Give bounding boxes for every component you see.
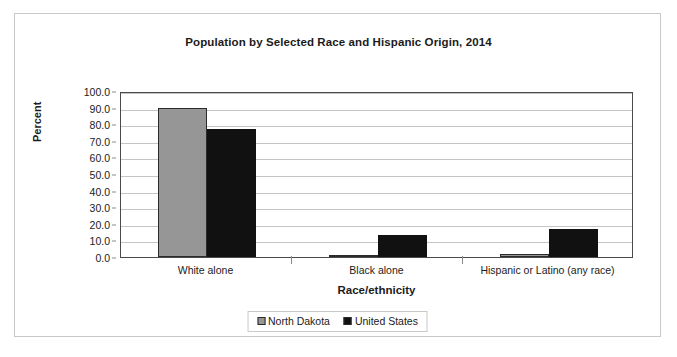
y-axis-tick-mark [112, 158, 116, 159]
y-axis-tick-mark [112, 208, 116, 209]
bar[interactable] [207, 129, 256, 257]
y-axis-tick-label: 90.0 [90, 103, 110, 115]
legend-entry[interactable]: North Dakota [257, 315, 330, 327]
bar-group [292, 93, 463, 257]
x-axis-title: Race/ethnicity [120, 284, 633, 296]
bars-layer [121, 93, 632, 257]
bar[interactable] [158, 108, 207, 257]
y-axis-tick-label: 10.0 [90, 235, 110, 247]
y-axis-tick-mark [112, 191, 116, 192]
x-axis-tick-label: Black alone [349, 264, 403, 276]
x-axis-tick-label: Hispanic or Latino (any race) [480, 264, 614, 276]
y-axis-tick-label: 100.0 [84, 86, 110, 98]
y-axis-tick-label: 40.0 [90, 186, 110, 198]
y-axis-tick-mark [112, 175, 116, 176]
plot-wrap [120, 92, 633, 258]
legend-swatch-icon [344, 317, 352, 325]
bar[interactable] [378, 235, 427, 257]
plot-area [120, 92, 633, 258]
bar[interactable] [549, 229, 598, 257]
y-axis-tick-mark [112, 258, 116, 259]
y-axis-tick-labels: 0.010.020.030.040.050.060.070.080.090.01… [59, 92, 116, 258]
y-axis-tick-label: 0.0 [95, 252, 110, 264]
x-axis-tick-labels: White aloneBlack aloneHispanic or Latino… [120, 264, 633, 282]
legend-label: United States [355, 315, 418, 327]
y-axis-tick-label: 50.0 [90, 169, 110, 181]
y-axis-tick-mark [112, 224, 116, 225]
bar-group [463, 93, 633, 257]
chart-legend: North DakotaUnited States [247, 311, 428, 332]
legend-entry[interactable]: United States [344, 315, 418, 327]
y-axis-tick-mark [112, 241, 116, 242]
y-axis-title: Percent [31, 102, 43, 142]
y-axis-tick-label: 80.0 [90, 119, 110, 131]
legend-label: North Dakota [268, 315, 330, 327]
y-axis-tick-label: 20.0 [90, 219, 110, 231]
bar[interactable] [329, 255, 378, 257]
bar[interactable] [500, 254, 549, 257]
y-axis-tick-label: 60.0 [90, 152, 110, 164]
y-axis-tick-label: 70.0 [90, 136, 110, 148]
legend-swatch-icon [257, 317, 265, 325]
y-axis-tick-mark [112, 141, 116, 142]
chart-title: Population by Selected Race and Hispanic… [15, 36, 662, 48]
chart-frame: Population by Selected Race and Hispanic… [14, 13, 661, 337]
bar-group [121, 93, 292, 257]
x-axis-tick-mark [462, 256, 463, 264]
y-axis-tick-label: 30.0 [90, 202, 110, 214]
x-axis-tick-label: White alone [178, 264, 233, 276]
y-axis-tick-mark [112, 125, 116, 126]
x-axis-tick-mark [291, 256, 292, 264]
y-axis-tick-mark [112, 92, 116, 93]
y-axis-tick-mark [112, 108, 116, 109]
